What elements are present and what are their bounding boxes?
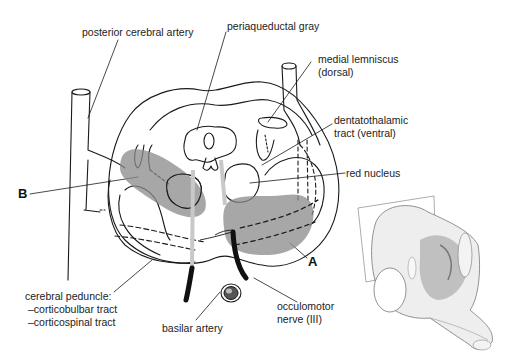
cp-leader [114, 260, 152, 292]
ba-leader [196, 292, 220, 320]
label-posterior-cerebral-artery: posterior cerebral artery [82, 26, 193, 39]
rn-leader [250, 173, 345, 183]
basilar-artery [221, 284, 241, 302]
label-corticospinal-tract: –corticospinal tract [28, 316, 116, 329]
label-basilar-artery: basilar artery [162, 322, 223, 335]
label-b: B [18, 186, 27, 201]
right-pca [282, 66, 320, 145]
periaqueductal-gray [184, 126, 236, 162]
oculomotor-nerve-left [186, 268, 192, 300]
label-a: A [308, 254, 317, 269]
label-medial-lemniscus: medial lemniscus [318, 53, 399, 66]
cerebral-aqueduct [204, 133, 214, 149]
label-periaqueductal-gray: periaqueductal gray [227, 20, 319, 33]
left-pca [68, 92, 125, 280]
label-oculomotor-nerve-iii: nerve (III) [277, 313, 322, 326]
brainstem-3d-inset [358, 196, 492, 350]
label-dentatothalamic-ventral: tract (ventral) [334, 127, 396, 140]
label-cerebral-peduncle: cerebral peduncle: [25, 290, 111, 303]
label-corticobulbar-tract: –corticobulbar tract [28, 303, 117, 316]
label-dentatothalamic: dentatothalamic [334, 114, 408, 127]
pag-leader [197, 32, 226, 130]
pca-leader [88, 40, 118, 118]
midbrain-diagram: posterior cerebral artery periaqueductal… [0, 0, 514, 357]
pale-tract-left [192, 170, 193, 268]
label-oculomotor: occulomotor [277, 300, 334, 313]
label-medial-lemniscus-dorsal: (dorsal) [318, 66, 354, 79]
on-leader [254, 278, 297, 302]
label-red-nucleus: red nucleus [346, 167, 400, 180]
b-leader [30, 177, 138, 194]
pale-tract-right [221, 160, 225, 205]
